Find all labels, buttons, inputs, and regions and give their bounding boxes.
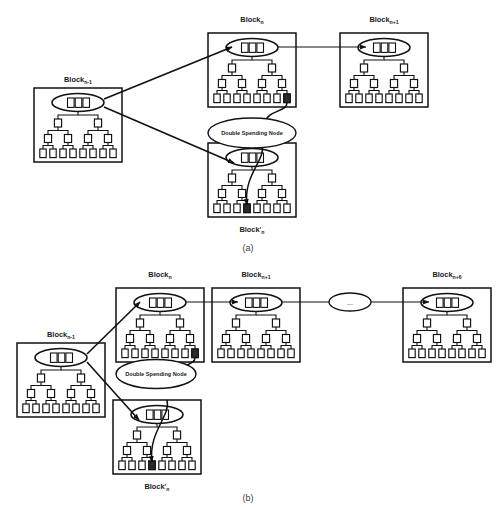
block-label-text: Block xyxy=(64,75,85,84)
block-n-plus-6-b: Blockn+6 xyxy=(403,270,491,362)
svg-text:Block'n: Block'n xyxy=(239,225,264,235)
double-spending-node-a: Double Spending Node xyxy=(208,118,296,148)
double-spending-node-b: Double Spending Node xyxy=(116,360,196,389)
block-n-a: Blockn xyxy=(208,15,296,107)
double-spending-node-label: Double Spending Node xyxy=(221,130,283,136)
block-label-subscript: n xyxy=(166,486,169,492)
block-label-subscript: n-1 xyxy=(84,79,92,85)
panel-caption-b: (b) xyxy=(243,493,254,503)
block-label-text: Block xyxy=(432,270,453,279)
block-label-subscript: n+1 xyxy=(390,19,399,25)
block-label-text: Block xyxy=(369,15,390,24)
svg-text:Blockn-1: Blockn-1 xyxy=(47,330,75,340)
double-spend-tx-highlight xyxy=(149,461,155,470)
block-n-b: Blockn xyxy=(116,270,204,362)
block-n-minus-1-a: Blockn-1 xyxy=(34,75,122,162)
block-label-subscript: n xyxy=(260,19,263,25)
block-label-text: Block' xyxy=(239,225,261,234)
block-n-prime-b: Block'n xyxy=(113,400,201,492)
block-label-subscript: n+1 xyxy=(262,274,271,280)
block-n-minus-1-b: Blockn-1 xyxy=(17,330,105,417)
block-label-text: Block' xyxy=(144,482,166,491)
svg-text:Block'n: Block'n xyxy=(144,482,169,492)
figure-canvas: Blockn-1 Blockn Blockn+1 Block'n xyxy=(0,0,498,507)
double-spend-tx-highlight xyxy=(284,94,290,103)
chain-ellipsis-label: ... xyxy=(347,299,353,306)
svg-text:Blockn: Blockn xyxy=(240,15,263,25)
double-spending-node-label: Double Spending Node xyxy=(125,371,187,377)
svg-text:Blockn: Blockn xyxy=(148,270,171,280)
block-label-subscript: n+6 xyxy=(453,274,462,280)
svg-text:Blockn+1: Blockn+1 xyxy=(369,15,398,25)
panel-caption-a: (a) xyxy=(243,243,254,253)
block-label-text: Block xyxy=(47,330,68,339)
block-label-text: Block xyxy=(240,15,261,24)
block-label-subscript: n-1 xyxy=(67,334,75,340)
svg-text:Blockn+1: Blockn+1 xyxy=(241,270,270,280)
panel-a: Blockn-1 Blockn Blockn+1 Block'n xyxy=(34,15,428,253)
double-spend-tx-highlight xyxy=(192,349,198,358)
svg-text:Blockn+6: Blockn+6 xyxy=(432,270,461,280)
double-spend-tx-highlight xyxy=(244,204,250,213)
block-label-subscript: n xyxy=(168,274,171,280)
block-n-plus-1-b: Blockn+1 xyxy=(212,270,300,362)
block-n-plus-1-a: Blockn+1 xyxy=(340,15,428,107)
block-label-text: Block xyxy=(148,270,169,279)
svg-text:Blockn-1: Blockn-1 xyxy=(64,75,92,85)
block-label-text: Block xyxy=(241,270,262,279)
chain-ellipsis-node: ... xyxy=(329,293,371,311)
block-label-subscript: n xyxy=(261,229,264,235)
panel-b: Blockn-1 Blockn Blockn+1 Blockn+6 xyxy=(17,270,491,503)
